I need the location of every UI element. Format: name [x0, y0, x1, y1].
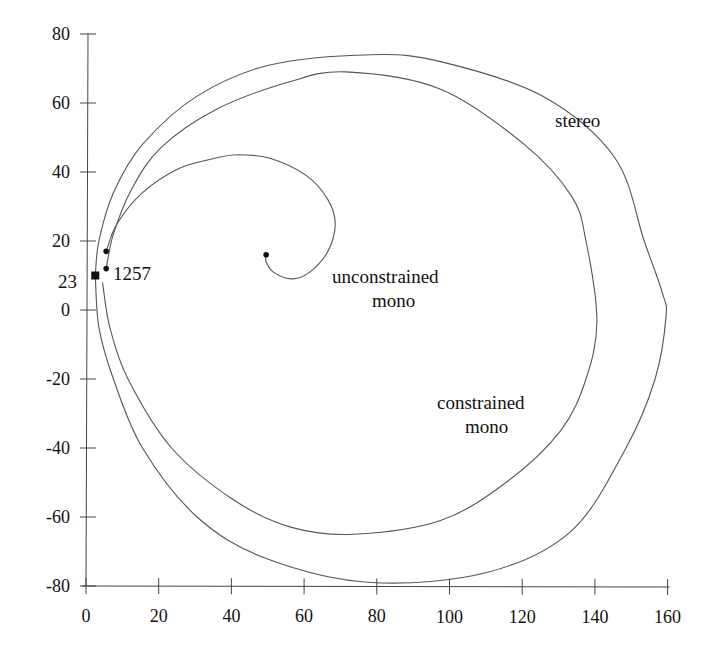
- chart: 806040200-20-40-60-800204060801001201401…: [0, 0, 723, 661]
- label-unconstrained-mono-line1: unconstrained: [332, 266, 439, 287]
- label-unconstrained-mono-line2: mono: [372, 290, 415, 311]
- y-tick-label: 20: [52, 231, 70, 251]
- x-tick-label: 80: [368, 606, 386, 626]
- curves: [95, 55, 666, 584]
- x-tick-label: 60: [295, 606, 313, 626]
- annotations: stereo unconstrained mono constrained mo…: [58, 110, 600, 437]
- x-axis: [82, 586, 670, 587]
- y-tick-label: -20: [46, 369, 70, 389]
- y-tick-label: 40: [52, 162, 70, 182]
- point-marker-dot: [103, 249, 109, 255]
- label-point-1257: 1257: [113, 263, 151, 284]
- x-tick-label: 100: [436, 607, 463, 627]
- curve-constrained-mono: [103, 72, 597, 535]
- y-tick-label: 0: [61, 300, 70, 320]
- x-tick-label: 20: [150, 606, 168, 626]
- y-tick-label: -80: [46, 576, 70, 596]
- y-tick-label: -60: [46, 507, 70, 527]
- label-constrained-mono-line1: constrained: [437, 392, 525, 413]
- y-tick-label: -40: [46, 438, 70, 458]
- label-constrained-mono-line2: mono: [465, 416, 508, 437]
- x-tick-label: 160: [654, 607, 681, 627]
- y-tick-label: 60: [52, 93, 70, 113]
- point-marker-dot: [103, 266, 109, 272]
- curve-stereo: [95, 55, 666, 584]
- y-tick-label: 80: [52, 24, 70, 44]
- x-tick-label: 0: [82, 606, 91, 626]
- label-point-23: 23: [58, 271, 77, 292]
- label-stereo: stereo: [555, 110, 600, 131]
- point-marker-square: [91, 272, 99, 280]
- x-tick-label: 120: [509, 607, 536, 627]
- x-tick-label: 40: [222, 606, 240, 626]
- point-marker-dot: [263, 252, 269, 258]
- x-tick-label: 140: [581, 607, 608, 627]
